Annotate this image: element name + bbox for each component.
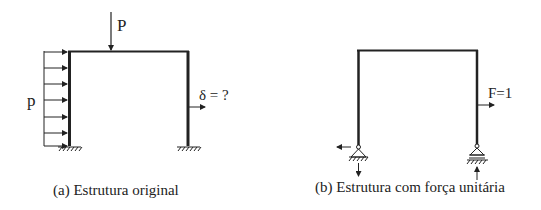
caption-b: (b) Estrutura com força unitária xyxy=(315,179,505,196)
frame-b xyxy=(357,50,478,145)
distributed-load-arrows-icon xyxy=(44,51,67,146)
figure-b-unit-force-structure: F=1 (b) Estrutura com força unitária xyxy=(315,50,512,196)
point-load-label: P xyxy=(117,16,126,35)
fixed-support-right-icon xyxy=(177,147,201,151)
distributed-load-label: p xyxy=(27,91,36,110)
displacement-label: δ = ? xyxy=(199,87,229,103)
figure-a-original-structure: P p δ = ? (a) Estrutura original xyxy=(27,12,229,199)
roller-support-right-icon xyxy=(467,144,488,164)
unit-force-label: F=1 xyxy=(488,85,512,101)
fixed-support-left-icon xyxy=(58,147,82,151)
pin-support-left-icon xyxy=(349,145,368,161)
frame-a xyxy=(68,51,189,146)
reaction-arrows-left-icon xyxy=(337,147,359,176)
frame-diagrams: P p δ = ? (a) Estrutura original xyxy=(0,0,541,210)
caption-a: (a) Estrutura original xyxy=(53,182,179,199)
